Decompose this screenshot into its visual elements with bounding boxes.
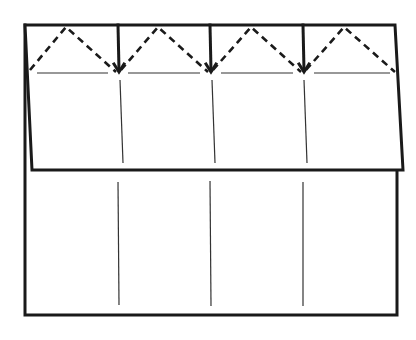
folded-flap xyxy=(25,25,403,170)
lower-crease-line xyxy=(210,181,211,306)
lower-creases xyxy=(118,181,303,306)
folding-diagram xyxy=(0,0,416,340)
lower-crease-line xyxy=(118,182,119,305)
